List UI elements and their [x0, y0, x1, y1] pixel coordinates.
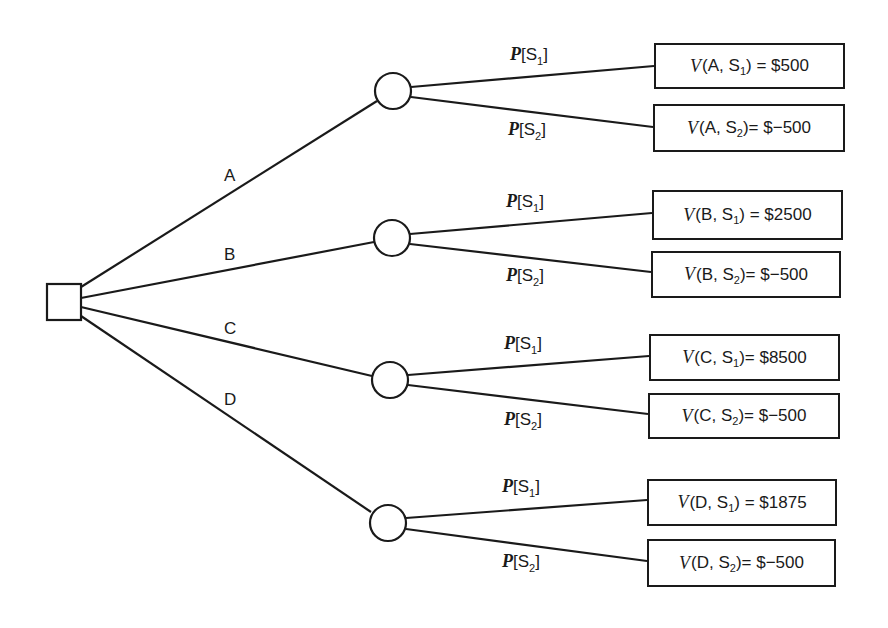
outcome-b1-line	[410, 213, 652, 234]
branch-c	[81, 307, 372, 376]
payoff-box-a2: V(A, S2)= $−500	[653, 104, 845, 152]
payoff-box-c2: V(C, S2)= $−500	[648, 393, 840, 439]
payoff-box-d2: V(D, S2)= $−500	[647, 539, 836, 587]
alternative-label-a: A	[224, 167, 235, 184]
outcome-a1-line	[411, 66, 654, 87]
prob-label-b2: P[S2]	[506, 266, 544, 284]
chance-node-b	[374, 220, 410, 256]
prob-label-b1: P[S1]	[506, 192, 544, 210]
outcome-d1-line	[406, 500, 647, 518]
prob-label-d1: P[S1]	[502, 477, 540, 495]
alternative-label-c: C	[224, 320, 236, 337]
prob-label-a2: P[S2]	[508, 120, 546, 138]
payoff-box-b1: V(B, S1) = $2500	[652, 190, 843, 240]
alternative-label-d: D	[224, 391, 236, 408]
payoff-box-b2: V(B, S2)= $−500	[651, 251, 841, 298]
chance-node-d	[370, 505, 406, 541]
tree-lines	[0, 0, 888, 628]
prob-label-a1: P[S1]	[510, 45, 548, 63]
decision-node	[47, 284, 81, 320]
prob-label-c1: P[S1]	[504, 334, 542, 352]
chance-node-c	[372, 362, 408, 398]
payoff-box-d1: V(D, S1) = $1875	[647, 479, 837, 526]
alternative-label-b: B	[224, 246, 235, 263]
prob-label-c2: P[S2]	[504, 410, 542, 428]
payoff-box-a1: V(A, S1) = $500	[654, 43, 845, 89]
branch-d	[81, 316, 371, 512]
outcome-c1-line	[408, 356, 649, 375]
prob-label-d2: P[S2]	[502, 552, 540, 570]
payoff-box-c1: V(C, S1)= $8500	[649, 334, 840, 381]
chance-node-a	[375, 73, 411, 109]
